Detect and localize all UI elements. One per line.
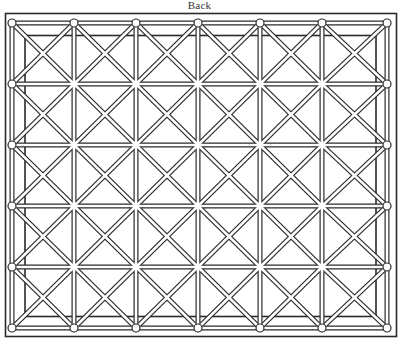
lattice-diagram bbox=[0, 0, 399, 343]
node-joint bbox=[132, 324, 140, 332]
node-joint bbox=[8, 263, 16, 271]
node-joint bbox=[318, 324, 326, 332]
node-joint bbox=[132, 19, 140, 27]
node-joint bbox=[8, 324, 16, 332]
node-joint bbox=[194, 324, 202, 332]
node-joint bbox=[8, 80, 16, 88]
node-joint bbox=[70, 19, 78, 27]
node-joint bbox=[8, 141, 16, 149]
node-joint bbox=[8, 202, 16, 210]
node-joint bbox=[194, 19, 202, 27]
node-joint bbox=[383, 141, 391, 149]
node-joint bbox=[256, 19, 264, 27]
node-joint bbox=[70, 324, 78, 332]
node-joint bbox=[383, 324, 391, 332]
node-joint bbox=[383, 202, 391, 210]
node-joint bbox=[8, 19, 16, 27]
node-joint bbox=[383, 19, 391, 27]
node-joint bbox=[383, 263, 391, 271]
node-joint bbox=[318, 19, 326, 27]
rods-outline bbox=[12, 23, 387, 328]
node-joint bbox=[383, 80, 391, 88]
node-joint bbox=[256, 324, 264, 332]
outer-frame bbox=[6, 14, 397, 337]
